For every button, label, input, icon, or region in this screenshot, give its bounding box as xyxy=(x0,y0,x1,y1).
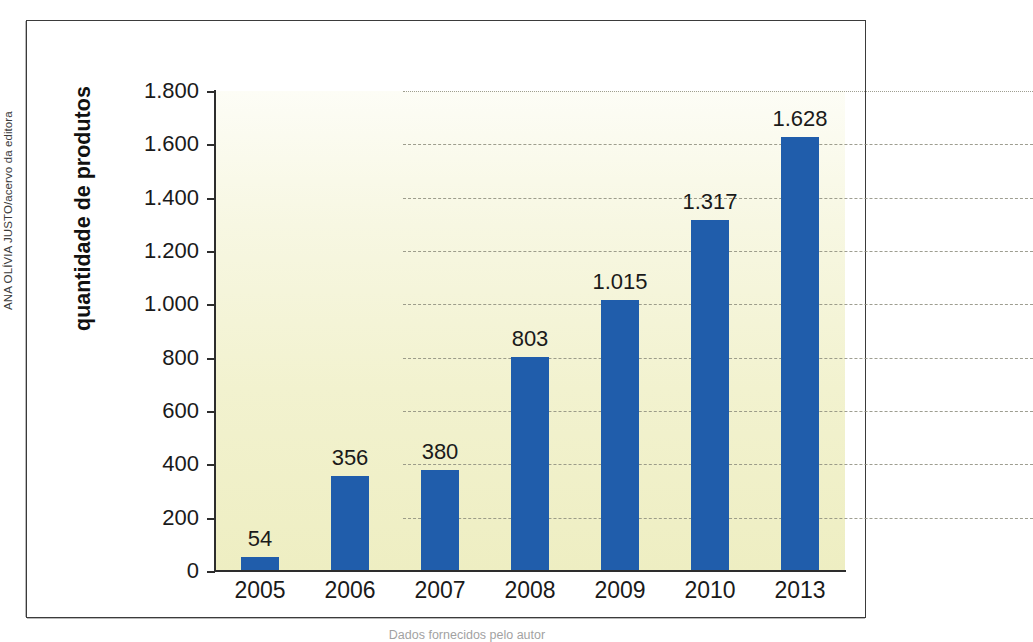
bar-value-label: 803 xyxy=(470,328,590,350)
y-axis-tick-label: 600 xyxy=(99,400,199,422)
y-axis-tick xyxy=(207,358,215,360)
image-credit: ANA OLÍVIA JUSTO/acervo da editora xyxy=(2,0,18,14)
bar xyxy=(331,476,369,571)
y-axis-tick-label: 1.800 xyxy=(99,80,199,102)
y-axis-line xyxy=(214,90,216,572)
bar xyxy=(241,557,279,571)
bar-value-label: 1.628 xyxy=(740,108,860,130)
y-axis-tick-label: 0 xyxy=(99,560,199,582)
gridline xyxy=(403,144,1033,145)
bar-value-label: 1.015 xyxy=(560,271,680,293)
y-axis-tick-label: 200 xyxy=(99,507,199,529)
y-axis-tick-label: 1.400 xyxy=(99,187,199,209)
bar xyxy=(691,220,729,571)
y-axis-tick xyxy=(207,304,215,306)
figure-caption: Dados fornecidos pelo autor xyxy=(232,628,702,642)
bar-value-label: 54 xyxy=(200,528,320,550)
y-axis-tick xyxy=(207,571,215,573)
y-axis-tick-label: 1.200 xyxy=(99,240,199,262)
y-axis-tick xyxy=(207,411,215,413)
bar xyxy=(511,357,549,571)
gridline xyxy=(403,91,1033,92)
bar-value-label: 380 xyxy=(380,441,500,463)
y-axis-tick xyxy=(207,144,215,146)
y-axis-title: quantidade de produtos xyxy=(71,1,96,331)
y-axis-tick-label: 1.600 xyxy=(99,133,199,155)
y-axis-tick-labels: 02004006008001.0001.2001.4001.6001.800 xyxy=(95,21,199,619)
bar xyxy=(781,137,819,571)
chart-frame: 02004006008001.0001.2001.4001.6001.800 q… xyxy=(26,20,866,618)
y-axis-tick xyxy=(207,91,215,93)
y-axis-tick-label: 1.000 xyxy=(99,293,199,315)
y-axis-tick xyxy=(207,464,215,466)
bar-value-label: 1.317 xyxy=(650,191,770,213)
y-axis-tick-label: 800 xyxy=(99,347,199,369)
y-axis-tick xyxy=(207,518,215,520)
x-axis-line xyxy=(214,570,846,572)
bar xyxy=(601,300,639,571)
image-credit-text: ANA OLÍVIA JUSTO/acervo da editora xyxy=(2,10,14,310)
x-axis-tick-label: 2013 xyxy=(740,579,860,602)
y-axis-tick xyxy=(207,251,215,253)
bar xyxy=(421,470,459,571)
y-axis-tick xyxy=(207,198,215,200)
y-axis-tick-label: 400 xyxy=(99,453,199,475)
